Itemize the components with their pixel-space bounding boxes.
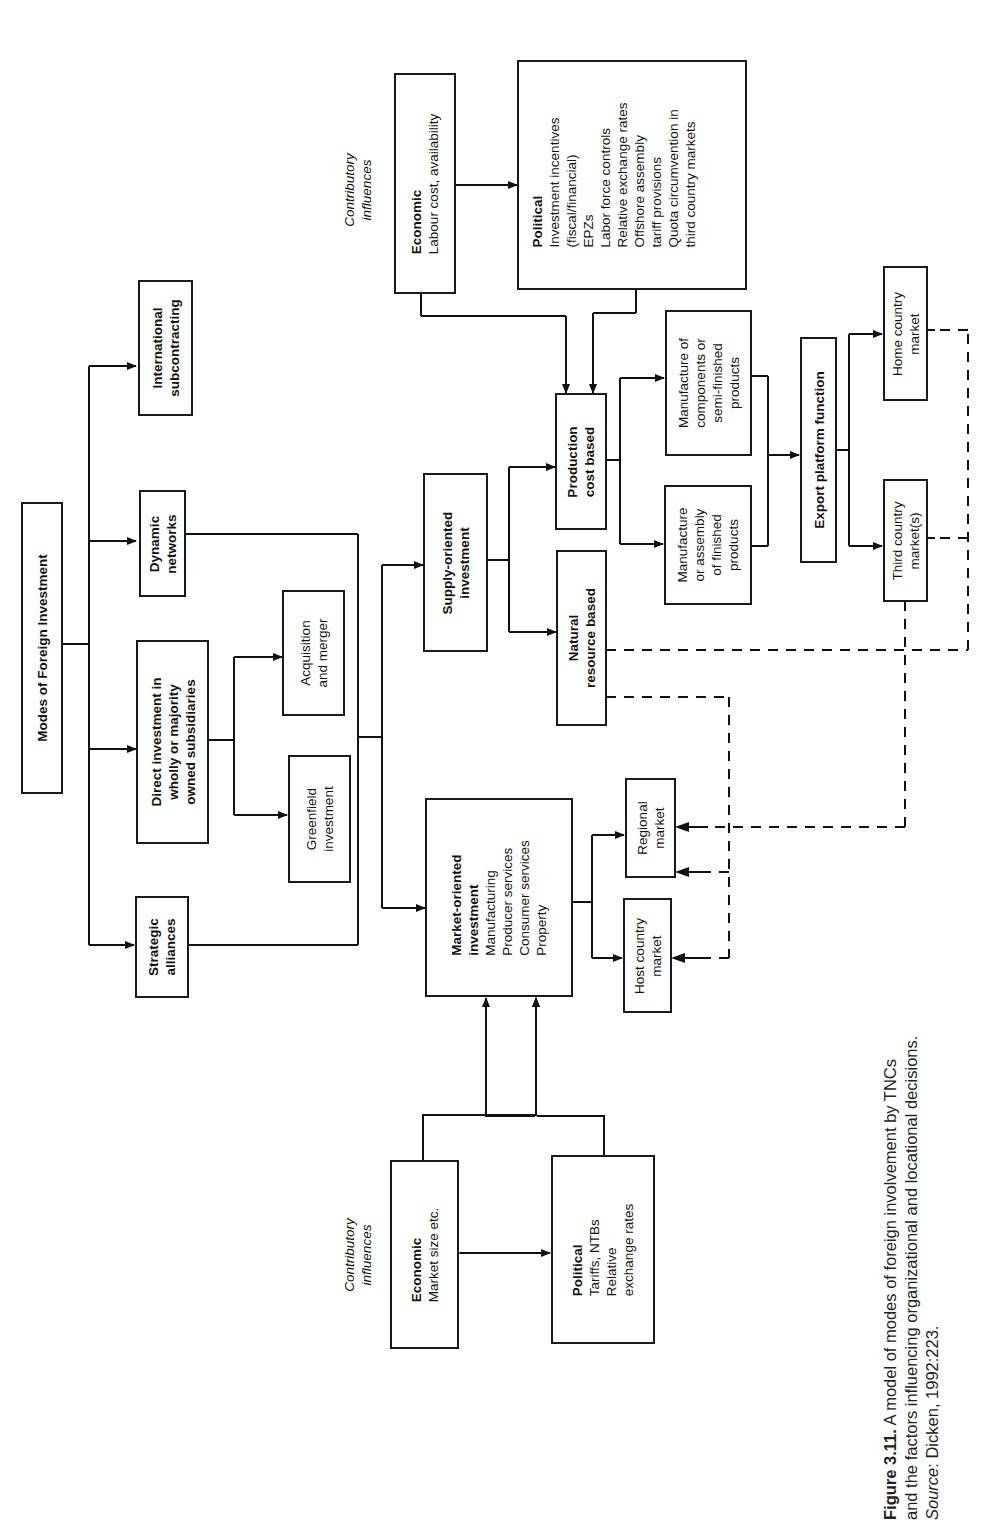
caption-text: A model of modes of foreign involvement … bbox=[881, 1059, 899, 1429]
figure-caption: Figure 3.11. A model of modes of foreign… bbox=[880, 1036, 943, 1520]
market-political-connector bbox=[0, 0, 989, 1525]
caption-source: Source: Dicken, 1992:223. bbox=[922, 1036, 943, 1520]
caption-line-2: and the factors influencing organization… bbox=[901, 1036, 922, 1520]
source-label: Source bbox=[923, 1468, 941, 1520]
caption-line-1: Figure 3.11. A model of modes of foreign… bbox=[880, 1036, 901, 1520]
source-text: : Dicken, 1992:223. bbox=[923, 1326, 941, 1468]
figure-number: Figure 3.11. bbox=[881, 1429, 899, 1520]
